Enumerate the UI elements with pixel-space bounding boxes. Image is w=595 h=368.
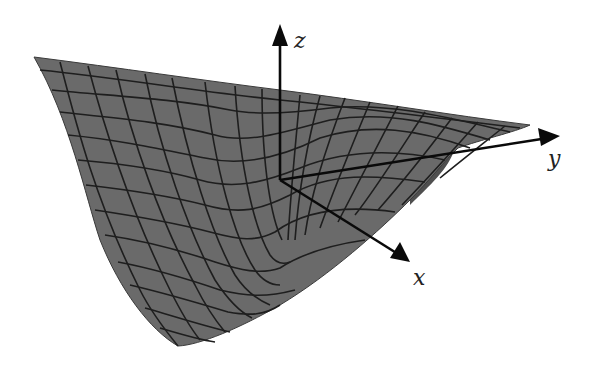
surface-plot-figure: z y x bbox=[0, 0, 595, 368]
z-axis-label: z bbox=[293, 28, 306, 53]
y-axis-label: y bbox=[547, 146, 561, 171]
z-axis-arrowhead bbox=[272, 24, 288, 46]
y-axis-arrowhead bbox=[538, 128, 560, 146]
x-axis-label: x bbox=[413, 265, 426, 290]
